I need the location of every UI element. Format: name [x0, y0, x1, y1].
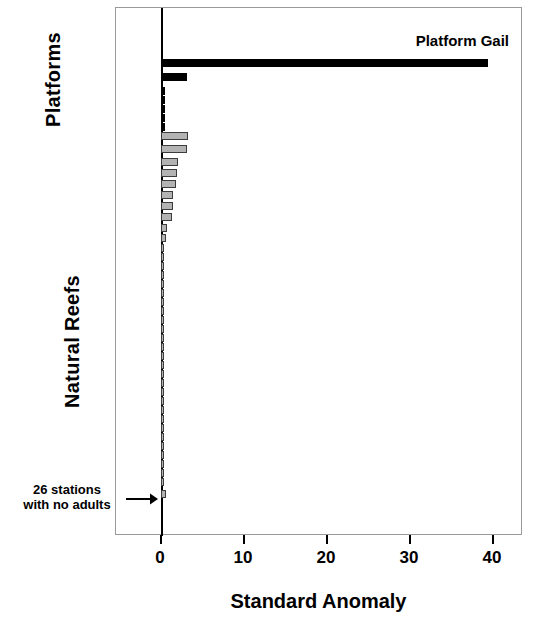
- bar-11: [161, 169, 177, 177]
- bar-2: [161, 73, 187, 81]
- bar-34: [161, 388, 164, 396]
- bar-13: [161, 191, 173, 199]
- bar-36: [161, 406, 164, 414]
- bar-43: [161, 469, 164, 477]
- bar-29: [161, 343, 164, 351]
- x-tick-label-30: 30: [389, 548, 429, 568]
- bar-14: [161, 202, 173, 210]
- right-arrow-icon: [126, 492, 158, 506]
- x-tick-40: [492, 535, 494, 544]
- bar-1: [161, 59, 488, 67]
- bar-40: [161, 442, 164, 450]
- bar-28: [161, 334, 164, 342]
- no-adults-annotation: 26 stations with no adults: [6, 482, 128, 512]
- bar-30: [161, 352, 164, 360]
- bar-38: [161, 424, 164, 432]
- bar-24: [161, 298, 164, 306]
- x-tick-30: [409, 535, 411, 544]
- plot-area: Platform Gail: [115, 7, 522, 535]
- bar-3: [161, 87, 165, 95]
- bar-5: [161, 105, 165, 113]
- x-tick-label-20: 20: [306, 548, 346, 568]
- bar-27: [161, 325, 164, 333]
- x-tick-label-10: 10: [223, 548, 263, 568]
- bar-10: [161, 158, 178, 166]
- bar-8: [161, 132, 188, 140]
- no-adults-line-2: with no adults: [6, 497, 128, 512]
- bar-19: [161, 253, 164, 261]
- bar-16: [161, 224, 167, 232]
- bar-20: [161, 262, 164, 270]
- bar-22: [161, 280, 164, 288]
- bar-39: [161, 433, 164, 441]
- bar-25: [161, 307, 164, 315]
- x-tick-0: [160, 535, 162, 544]
- bar-45: [161, 490, 166, 498]
- bar-26: [161, 316, 164, 324]
- bar-15: [161, 213, 172, 221]
- no-adults-line-1: 26 stations: [6, 482, 128, 497]
- bar-23: [161, 289, 164, 297]
- figure-root: Platforms Natural Reefs Platform Gail 01…: [0, 0, 539, 632]
- bar-21: [161, 271, 164, 279]
- bar-4: [161, 96, 165, 104]
- bar-32: [161, 370, 164, 378]
- bar-42: [161, 460, 164, 468]
- bar-18: [161, 244, 164, 252]
- bar-33: [161, 379, 164, 387]
- bar-7: [161, 123, 165, 131]
- bar-12: [161, 180, 176, 188]
- platform-gail-annotation: Platform Gail: [416, 32, 509, 49]
- bar-6: [161, 114, 165, 122]
- bar-41: [161, 451, 164, 459]
- x-tick-10: [243, 535, 245, 544]
- x-tick-label-0: 0: [140, 548, 180, 568]
- x-tick-20: [326, 535, 328, 544]
- bar-35: [161, 397, 164, 405]
- axis-group-label-platforms: Platforms: [42, 10, 65, 150]
- bar-9: [161, 145, 187, 153]
- bar-17: [161, 234, 166, 242]
- axis-group-label-natural-reefs: Natural Reefs: [61, 242, 84, 442]
- x-axis-title: Standard Anomaly: [115, 590, 522, 613]
- bar-31: [161, 361, 164, 369]
- bar-44: [161, 478, 164, 486]
- x-tick-label-40: 40: [472, 548, 512, 568]
- bar-37: [161, 415, 164, 423]
